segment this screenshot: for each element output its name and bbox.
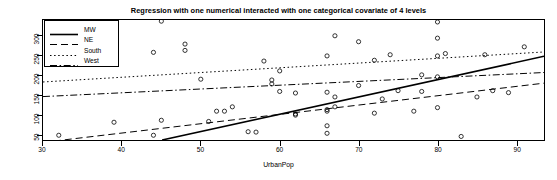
x-axis-title: UrbanPop	[0, 161, 557, 168]
chart-legend: MWNESouthWest	[44, 20, 119, 67]
y-tick-label: 150	[33, 94, 40, 105]
data-point	[459, 134, 463, 138]
data-point	[325, 90, 329, 94]
legend-item-west: West	[45, 56, 118, 67]
data-point	[278, 69, 282, 73]
data-point	[388, 53, 392, 57]
x-tick-label: 90	[514, 146, 521, 153]
legend-item-ne: NE	[45, 35, 118, 46]
data-point	[325, 131, 329, 135]
data-point	[475, 95, 479, 99]
x-tick-label: 80	[434, 146, 441, 153]
data-point	[333, 34, 337, 38]
x-tick-label: 60	[276, 146, 283, 153]
legend-item-south: South	[45, 45, 118, 56]
legend-label: MW	[84, 25, 96, 34]
data-point	[412, 109, 416, 113]
data-point	[435, 106, 439, 110]
data-point	[420, 73, 424, 77]
data-point	[278, 89, 282, 93]
data-point	[183, 42, 187, 46]
data-point	[435, 36, 439, 40]
legend-line-swatch	[49, 56, 79, 65]
legend-line-swatch	[49, 46, 79, 55]
data-point	[214, 109, 218, 113]
data-point	[356, 83, 360, 87]
y-tick-label: 50	[33, 134, 40, 141]
data-point	[443, 51, 447, 55]
data-point	[380, 97, 384, 101]
data-point	[151, 50, 155, 54]
data-point	[333, 95, 337, 99]
legend-item-mw: MW	[45, 24, 118, 35]
data-point	[254, 130, 258, 134]
data-point	[372, 111, 376, 115]
legend-line-swatch	[49, 35, 79, 44]
data-point	[230, 105, 234, 109]
data-point	[246, 130, 250, 134]
chart-title: Regression with one numerical interacted…	[0, 6, 557, 15]
legend-label: West	[84, 56, 99, 65]
data-point	[356, 40, 360, 44]
data-point	[333, 105, 337, 109]
data-point	[435, 75, 439, 79]
data-point	[435, 54, 439, 58]
x-tick-label: 70	[355, 146, 362, 153]
x-tick-label: 40	[118, 146, 125, 153]
y-tick-label: 250	[33, 54, 40, 65]
data-point	[325, 124, 329, 128]
regression-line	[162, 56, 544, 140]
y-tick-label: 200	[33, 74, 40, 85]
data-point	[270, 78, 274, 82]
data-point	[159, 20, 163, 23]
x-tick-label: 50	[197, 146, 204, 153]
data-point	[435, 20, 439, 24]
data-point	[199, 77, 203, 81]
data-point	[522, 45, 526, 49]
chart-root: Regression with one numerical interacted…	[0, 0, 557, 180]
data-point	[151, 133, 155, 137]
data-point	[420, 89, 424, 93]
legend-label: South	[84, 46, 101, 55]
data-point	[483, 53, 487, 57]
data-point	[325, 54, 329, 58]
legend-line-swatch	[49, 25, 79, 34]
data-point	[159, 118, 163, 122]
data-point	[506, 91, 510, 95]
data-point	[262, 59, 266, 63]
y-tick-label: 300	[33, 34, 40, 45]
data-point	[183, 48, 187, 52]
data-point	[57, 133, 61, 137]
legend-label: NE	[84, 35, 93, 44]
y-tick-label: 100	[33, 114, 40, 125]
data-point	[293, 91, 297, 95]
data-point	[222, 109, 226, 113]
data-point	[112, 120, 116, 124]
x-axis: 30405060708090	[42, 141, 545, 142]
x-tick-label: 30	[38, 146, 45, 153]
